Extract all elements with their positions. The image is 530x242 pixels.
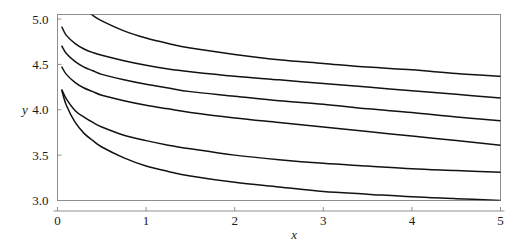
x-tick-label: 1 (143, 213, 150, 228)
x-tick-label: 0 (54, 213, 61, 228)
plot-svg: 3.03.54.04.55.0 012345 x y (0, 0, 530, 242)
chart-figure: 3.03.54.04.55.0 012345 x y (0, 0, 530, 242)
x-tick-label: 3 (320, 213, 327, 228)
x-axis-title: x (290, 227, 297, 242)
y-tick-label: 3.5 (32, 148, 48, 163)
y-tick-label: 4.0 (32, 102, 48, 117)
y-axis-title: y (20, 102, 28, 117)
x-tick-label: 4 (409, 213, 416, 228)
y-tick-label: 5.0 (32, 12, 48, 27)
x-tick-label: 5 (497, 213, 504, 228)
y-tick-label: 3.0 (32, 193, 48, 208)
x-tick-label: 2 (231, 213, 238, 228)
y-tick-label: 4.5 (32, 57, 48, 72)
